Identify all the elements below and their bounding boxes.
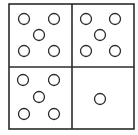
cell-bottom-left bbox=[18, 75, 60, 120]
circle-dot bbox=[49, 14, 60, 25]
circle-dot bbox=[49, 46, 60, 57]
cell-top-left bbox=[19, 14, 60, 57]
circle-dot bbox=[34, 92, 45, 103]
circle-dot bbox=[110, 14, 121, 25]
circle-dot bbox=[95, 30, 106, 41]
circle-dot bbox=[19, 14, 30, 25]
cell-top-right bbox=[81, 14, 121, 57]
dot-pattern-grid bbox=[0, 0, 138, 135]
circle-dot bbox=[19, 46, 30, 57]
circle-dot bbox=[49, 109, 60, 120]
circle-dot bbox=[49, 75, 60, 86]
circle-dot bbox=[81, 46, 92, 57]
circle-dot bbox=[19, 109, 30, 120]
circle-dot bbox=[18, 75, 29, 86]
circle-dot bbox=[110, 46, 121, 57]
circle-dot bbox=[81, 14, 92, 25]
cell-bottom-right bbox=[95, 94, 106, 105]
circle-dot bbox=[34, 30, 45, 41]
circle-dot bbox=[95, 94, 106, 105]
